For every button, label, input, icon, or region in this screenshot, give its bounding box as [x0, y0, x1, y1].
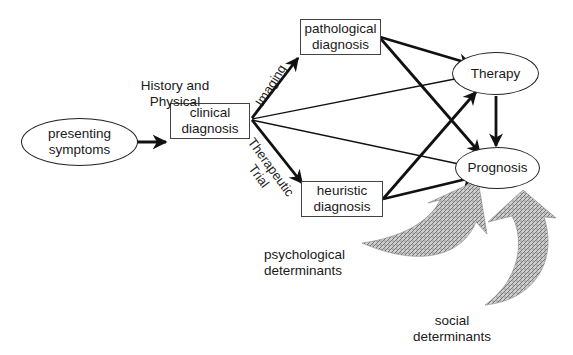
node-pathological-diagnosis: pathological diagnosis [300, 19, 381, 55]
edge-clinical-to-therapy [252, 76, 470, 119]
node-heuristic-diagnosis: heuristic diagnosis [301, 181, 383, 217]
label-line: determinants [264, 263, 345, 279]
label-line: social [402, 313, 502, 329]
label-social-determinants: social determinants [402, 313, 502, 345]
social-determinants-arrow [485, 190, 556, 305]
label-line: determinants [402, 329, 502, 345]
node-label: heuristic [317, 183, 367, 199]
edge-heuristic-to-therapy [383, 92, 476, 199]
node-label: presenting [48, 126, 111, 142]
node-label: Therapy [471, 66, 521, 82]
node-prognosis: Prognosis [455, 147, 540, 189]
node-label: pathological [304, 21, 376, 37]
node-presenting-symptoms: presenting symptoms [21, 118, 138, 166]
node-label: diagnosis [181, 121, 238, 137]
edge-label-history-physical: History and Physical [130, 78, 220, 110]
node-therapy: Therapy [452, 52, 539, 95]
node-label: symptoms [49, 142, 111, 158]
edge-label-line: History and [130, 78, 220, 94]
edge-pathological-to-therapy [380, 37, 471, 64]
node-label: Prognosis [467, 160, 527, 176]
label-line: psychological [264, 247, 345, 263]
node-label: diagnosis [313, 199, 370, 215]
edge-pathological-to-prognosis [381, 39, 480, 153]
node-label: diagnosis [312, 37, 369, 53]
label-psychological-determinants: psychological determinants [264, 247, 345, 279]
edge-label-line: Physical [130, 94, 220, 110]
